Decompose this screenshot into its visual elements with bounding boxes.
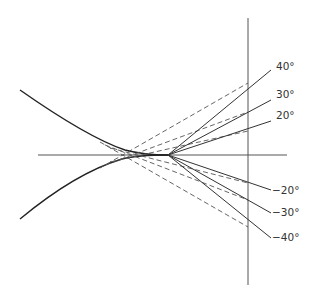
label-30: 30° <box>276 88 295 100</box>
solid-ray-m40 <box>168 155 271 238</box>
solid-ray-m20 <box>168 155 271 190</box>
dashed-ray-30 <box>105 112 248 165</box>
dashed-ray-m20 <box>110 148 248 183</box>
solid-ray-30 <box>168 100 271 155</box>
dashed-ray-m30 <box>105 145 248 200</box>
label-m40: −40° <box>272 231 299 243</box>
caustic-ray-diagram: 40° 30° 20° −20° −30° −40° <box>0 0 313 297</box>
label-20: 20° <box>276 109 295 121</box>
lower-caustic-curve <box>20 155 168 219</box>
upper-caustic-curve <box>20 90 168 155</box>
solid-ray-20 <box>168 121 271 155</box>
solid-rays <box>168 70 271 238</box>
label-m20: −20° <box>272 184 299 196</box>
solid-ray-m30 <box>168 155 271 213</box>
label-m30: −30° <box>272 206 299 218</box>
label-40: 40° <box>276 60 295 72</box>
solid-ray-40 <box>168 70 271 155</box>
